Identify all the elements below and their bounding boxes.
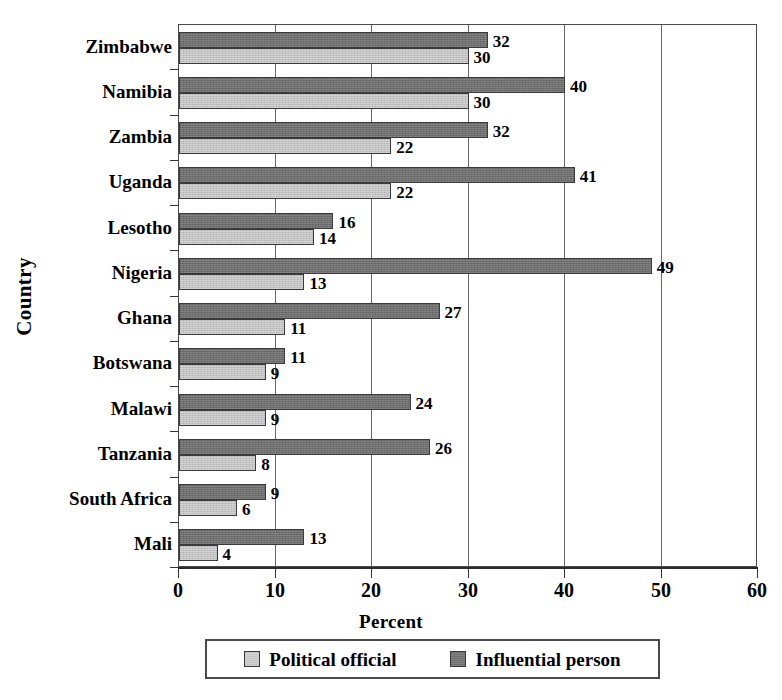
gridline-x-40 (564, 25, 565, 566)
bar-political-official-ghana (179, 319, 285, 335)
category-label-namibia: Namibia (20, 82, 172, 101)
category-label-zimbabwe: Zimbabwe (20, 37, 172, 56)
legend-item-political-official[interactable]: Political official (244, 650, 396, 669)
value-label-political-official-nigeria: 13 (309, 275, 326, 292)
category-label-nigeria: Nigeria (20, 263, 172, 282)
x-tick-0 (178, 569, 179, 578)
x-axis-title: Percent (0, 611, 782, 633)
x-tick-label-50: 50 (631, 580, 691, 600)
category-label-botswana: Botswana (20, 353, 172, 372)
value-label-influential-person-malawi: 24 (416, 395, 433, 412)
category-label-zambia: Zambia (20, 127, 172, 146)
value-label-influential-person-zambia: 32 (493, 123, 510, 140)
category-label-south-africa: South Africa (20, 489, 172, 508)
value-label-influential-person-mali: 13 (309, 530, 326, 547)
category-label-lesotho: Lesotho (20, 218, 172, 237)
value-label-political-official-tanzania: 8 (261, 456, 270, 473)
bar-political-official-mali (179, 545, 218, 561)
value-label-political-official-south-africa: 6 (242, 501, 251, 518)
x-tick-label-10: 10 (245, 580, 305, 600)
bar-influential-person-ghana (179, 303, 440, 319)
plot-area: 3230403032224122161449132711119249268961… (178, 24, 757, 567)
bar-influential-person-tanzania (179, 439, 430, 455)
category-label-malawi: Malawi (20, 399, 172, 418)
x-tick-50 (661, 569, 662, 578)
category-label-tanzania: Tanzania (20, 444, 172, 463)
value-label-influential-person-ghana: 27 (445, 304, 462, 321)
bar-influential-person-namibia (179, 77, 565, 93)
x-tick-60 (757, 569, 758, 578)
value-label-political-official-ghana: 11 (290, 320, 306, 337)
bar-influential-person-mali (179, 529, 304, 545)
x-tick-label-0: 0 (148, 580, 208, 600)
category-label-ghana: Ghana (20, 308, 172, 327)
bar-political-official-zimbabwe (179, 48, 469, 64)
value-label-political-official-namibia: 30 (474, 94, 491, 111)
value-label-political-official-uganda: 22 (396, 184, 413, 201)
value-label-influential-person-zimbabwe: 32 (493, 33, 510, 50)
legend-swatch-icon-dark (450, 651, 466, 667)
x-tick-30 (468, 569, 469, 578)
x-tick-20 (371, 569, 372, 578)
legend-item-influential-person[interactable]: Influential person (450, 650, 620, 669)
legend-label: Political official (269, 650, 396, 669)
x-tick-10 (275, 569, 276, 578)
x-tick-label-40: 40 (534, 580, 594, 600)
bar-political-official-malawi (179, 410, 266, 426)
x-tick-label-30: 30 (438, 580, 498, 600)
bar-influential-person-uganda (179, 167, 575, 183)
value-label-political-official-zambia: 22 (396, 139, 413, 156)
value-label-influential-person-botswana: 11 (290, 349, 306, 366)
x-tick-label-20: 20 (341, 580, 401, 600)
value-label-influential-person-lesotho: 16 (338, 214, 355, 231)
x-tick-label-60: 60 (727, 580, 782, 600)
legend-swatch-icon-light (244, 651, 260, 667)
bar-political-official-zambia (179, 138, 391, 154)
value-label-influential-person-nigeria: 49 (657, 259, 674, 276)
category-label-column: ZimbabweNamibiaZambiaUgandaLesothoNigeri… (20, 24, 172, 567)
bar-influential-person-south-africa (179, 484, 266, 500)
chart-legend: Political officialInfluential person (205, 639, 660, 679)
value-label-political-official-lesotho: 14 (319, 230, 336, 247)
bar-influential-person-botswana (179, 348, 285, 364)
value-label-political-official-mali: 4 (223, 546, 232, 563)
bar-political-official-tanzania (179, 455, 256, 471)
bar-political-official-lesotho (179, 229, 314, 245)
bar-political-official-uganda (179, 183, 391, 199)
chart-canvas: Country ZimbabweNamibiaZambiaUgandaLesot… (0, 0, 782, 700)
bar-influential-person-malawi (179, 394, 411, 410)
bar-influential-person-zambia (179, 122, 488, 138)
value-label-influential-person-south-africa: 9 (271, 485, 280, 502)
value-label-political-official-botswana: 9 (271, 365, 280, 382)
gridline-x-50 (661, 25, 662, 566)
value-label-political-official-malawi: 9 (271, 411, 280, 428)
value-label-political-official-zimbabwe: 30 (474, 49, 491, 66)
category-label-mali: Mali (20, 534, 172, 553)
bar-influential-person-nigeria (179, 258, 652, 274)
value-label-influential-person-namibia: 40 (570, 78, 587, 95)
bar-political-official-nigeria (179, 274, 304, 290)
bar-political-official-south-africa (179, 500, 237, 516)
x-tick-40 (564, 569, 565, 578)
legend-label: Influential person (475, 650, 620, 669)
bar-influential-person-lesotho (179, 213, 333, 229)
bar-influential-person-zimbabwe (179, 32, 488, 48)
bar-political-official-botswana (179, 364, 266, 380)
value-label-influential-person-uganda: 41 (580, 168, 597, 185)
bar-political-official-namibia (179, 93, 469, 109)
category-label-uganda: Uganda (20, 172, 172, 191)
value-label-influential-person-tanzania: 26 (435, 440, 452, 457)
